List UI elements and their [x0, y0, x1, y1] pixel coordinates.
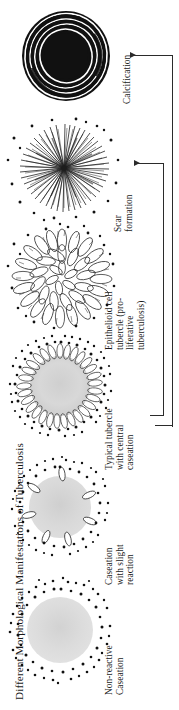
- label-non-reactive-caseation: Non-reactive Caseation: [104, 645, 125, 695]
- calcification-arrow-shaft: [133, 55, 173, 56]
- outer-bracket-spine: [172, 55, 173, 427]
- inner-bracket-spine: [163, 163, 164, 416]
- calcification-arrowhead: [130, 52, 136, 58]
- scar-formation-illustration: [0, 112, 128, 220]
- inner-bracket-foot: [150, 415, 164, 416]
- scar-formation-arrow-shaft: [137, 163, 164, 164]
- panel-calcification: [0, 2, 128, 110]
- label-calcification: Calcification: [122, 55, 133, 104]
- calcification-illustration: [0, 2, 128, 110]
- panel-scar-formation: [0, 112, 128, 220]
- scar-formation-arrowhead: [134, 160, 140, 166]
- figure-canvas: Different Morphological Manifestations o…: [0, 0, 179, 710]
- outer-bracket-foot: [155, 425, 173, 426]
